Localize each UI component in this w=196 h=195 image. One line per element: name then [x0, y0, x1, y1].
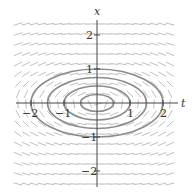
slope-segment — [15, 81, 21, 88]
slope-segment — [159, 81, 166, 87]
slope-segment — [30, 153, 39, 156]
slope-segment — [62, 34, 71, 35]
slope-segment — [40, 90, 45, 98]
slope-segment — [62, 163, 71, 164]
slope-segment — [110, 174, 119, 175]
slope-segment — [46, 163, 55, 165]
slope-segment — [150, 132, 158, 136]
slope-segment — [134, 153, 143, 155]
slope-segment — [54, 33, 63, 34]
slope-segment — [46, 43, 55, 45]
slope-segment — [38, 33, 47, 35]
slope-segment — [134, 82, 142, 86]
slope-segment — [46, 132, 54, 135]
slope-segment — [150, 173, 159, 175]
slope-segment — [150, 142, 158, 145]
slope-segment — [22, 163, 31, 166]
slope-segment — [22, 183, 31, 185]
slope-segment — [152, 90, 157, 98]
slope-segment — [70, 154, 79, 155]
slope-segment — [126, 53, 135, 55]
slope-segment — [102, 144, 111, 145]
slope-segment — [142, 153, 151, 155]
slope-segment — [14, 71, 21, 76]
slope-segment — [54, 63, 63, 65]
x-tick-label: −2 — [81, 165, 97, 178]
slope-segment — [110, 154, 119, 155]
slope-segment — [102, 113, 111, 115]
slope-segment — [134, 163, 143, 165]
slope-segment — [78, 154, 87, 155]
slope-segment — [22, 173, 31, 175]
slope-segment — [118, 53, 127, 54]
slope-segment — [166, 72, 173, 77]
slope-segment — [159, 121, 166, 127]
slope-segment — [166, 43, 175, 46]
slope-segment — [46, 183, 55, 184]
slope-segment — [158, 163, 167, 165]
slope-segment — [118, 164, 127, 165]
slope-segment — [110, 24, 119, 25]
slope-segment — [14, 62, 22, 66]
slope-segment — [62, 24, 71, 25]
slope-segment — [50, 100, 51, 109]
slope-segment — [30, 23, 39, 25]
slope-segment — [78, 44, 87, 45]
slope-segment — [168, 90, 172, 98]
slope-segment — [14, 33, 23, 36]
slope-segment — [14, 142, 22, 146]
slope-segment — [30, 53, 39, 56]
slope-segment — [46, 72, 54, 76]
slope-segment — [14, 52, 22, 56]
slope-segment — [118, 24, 127, 25]
slope-segment — [46, 33, 55, 35]
slope-segment — [134, 53, 143, 55]
slope-segment — [38, 23, 47, 25]
slope-segment — [166, 152, 174, 155]
slope-segment — [78, 92, 86, 96]
slope-segment — [150, 62, 158, 65]
slope-segment — [30, 33, 39, 35]
slope-segment — [142, 183, 151, 184]
slope-segment — [151, 110, 156, 117]
slope-segment — [134, 23, 143, 24]
slope-segment — [88, 100, 92, 108]
axes: −2−11221−1−2 t x — [16, 5, 186, 187]
slope-segment — [62, 43, 71, 44]
slope-segment — [158, 173, 167, 175]
slope-segment — [86, 124, 95, 125]
slope-segment — [110, 164, 119, 165]
x-tick-label: −1 — [81, 131, 97, 144]
slope-segment — [70, 24, 79, 25]
slope-segment — [30, 183, 39, 185]
slope-segment — [54, 23, 63, 24]
slope-segment — [70, 164, 79, 165]
slope-segment — [70, 83, 79, 86]
slope-segment — [54, 163, 63, 165]
slope-segment — [78, 83, 87, 85]
slope-segment — [121, 100, 122, 109]
slope-segment — [110, 64, 119, 65]
slope-segment — [118, 63, 127, 65]
slope-segment — [62, 184, 71, 185]
slope-segment — [86, 84, 95, 85]
slope-segment — [134, 183, 143, 184]
slope-segment — [150, 72, 158, 76]
slope-segment — [38, 53, 47, 56]
slope-segment — [70, 184, 79, 185]
slope-segment — [126, 163, 135, 164]
slope-segment — [38, 62, 46, 65]
slope-segment — [110, 54, 119, 55]
slope-segment — [55, 91, 61, 98]
slope-segment — [30, 173, 39, 175]
slope-segment — [46, 82, 54, 87]
slope-segment — [126, 143, 135, 145]
slope-segment — [158, 43, 167, 46]
slope-segment — [142, 173, 151, 175]
slope-segment — [135, 91, 141, 98]
slope-segment — [38, 143, 46, 146]
slope-segment — [134, 143, 143, 145]
slope-segment — [70, 63, 79, 64]
slope-segment — [73, 100, 74, 109]
slope-segment — [110, 133, 119, 134]
